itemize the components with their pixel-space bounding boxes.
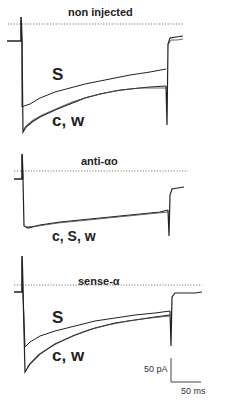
scale-bar [171,358,201,382]
trace-plot [0,140,227,250]
panel-anti-alpha-o: anti-αo c, S, w [0,140,227,250]
trace-label-s: S [52,308,63,328]
trace-label-s: S [52,65,63,85]
trace-label-cw: c, w [52,346,84,366]
scale-label-current: 50 pA [144,364,168,374]
trace-label-csw: c, S, w [52,228,96,244]
trace-label-cw: c, w [52,111,84,131]
trace-plot [0,0,227,135]
panel-non-injected: non injected S c, w [0,0,227,135]
panel-sense-alpha: sense-α S c, w 50 pA 50 ms [0,250,227,405]
trace-plot [0,250,227,405]
scale-label-time: 50 ms [181,386,206,396]
